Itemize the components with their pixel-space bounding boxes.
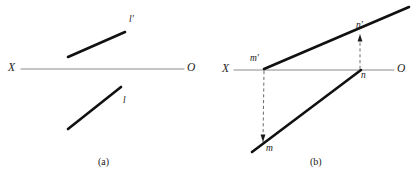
panel-a-axis-label-o: O (187, 62, 195, 74)
panel-b-projector-m-prime-to-m (263, 71, 264, 142)
panel-b-label-n-prime: n' (356, 21, 363, 31)
panel-a-caption: (a) (98, 157, 109, 167)
panel-b-segment-m-n (252, 70, 361, 152)
panel-b-group (234, 7, 409, 152)
panel-a-axis-label-x: X (8, 62, 15, 74)
panel-b-label-m-prime: m' (250, 54, 259, 64)
figure-root: X O l' l (a) X O m' m n' n (b) (0, 0, 416, 176)
panel-a-label-l: l (123, 96, 126, 106)
panel-a-segment-l-prime (68, 32, 125, 57)
panel-b-caption: (b) (310, 157, 322, 167)
panel-b-label-m: m (266, 144, 273, 154)
panel-b-arrowhead-up-icon (358, 34, 363, 42)
panel-a-segment-l (68, 87, 121, 129)
panel-b-segment-m-prime-n-prime (264, 7, 409, 69)
geometry-diagram (0, 0, 416, 176)
panel-b-label-n: n (361, 71, 366, 81)
panel-a-label-l-prime: l' (129, 15, 134, 25)
panel-b-axis-label-o: O (397, 63, 405, 75)
panel-b-axis-label-x: X (222, 63, 229, 75)
panel-a-group (21, 32, 184, 129)
